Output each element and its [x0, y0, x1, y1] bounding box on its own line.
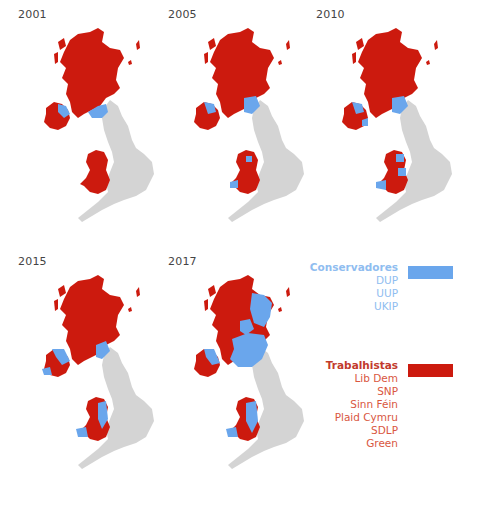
legend-swatch-labour: [408, 364, 453, 377]
legend-head-conservadores: Conservadores: [310, 261, 398, 274]
legend-swatch-conservative: [408, 266, 453, 279]
uk-map: [18, 22, 168, 242]
year-label: 2017: [168, 255, 197, 268]
year-label: 2005: [168, 8, 197, 21]
legend-labour-group: Trabalhistas Lib Dem SNP Sinn Féin Plaid…: [326, 359, 398, 450]
legend-item-sinn-fein: Sinn Féin: [326, 398, 398, 411]
legend-item-uup: UUP: [310, 287, 398, 300]
map-panel-2015: 2015: [18, 255, 168, 495]
uk-map: [316, 22, 466, 242]
legend-item-snp: SNP: [326, 385, 398, 398]
map-panel-2017: 2017: [168, 255, 318, 495]
legend-item-dup: DUP: [310, 274, 398, 287]
legend-item-green: Green: [326, 437, 398, 450]
legend-item-ukip: UKIP: [310, 300, 398, 313]
year-label: 2010: [316, 8, 345, 21]
map-panel-2001: 2001: [18, 8, 168, 248]
legend-item-lib-dem: Lib Dem: [326, 372, 398, 385]
uk-map: [168, 269, 318, 489]
year-label: 2001: [18, 8, 47, 21]
year-label: 2015: [18, 255, 47, 268]
uk-map: [168, 22, 318, 242]
map-panel-2005: 2005: [168, 8, 318, 248]
legend-conservative-group: Conservadores DUP UUP UKIP: [310, 261, 398, 313]
legend-item-sdlp: SDLP: [326, 424, 398, 437]
map-panel-2010: 2010: [316, 8, 466, 248]
legend-head-trabalhistas: Trabalhistas: [326, 359, 398, 372]
uk-map: [18, 269, 168, 489]
legend-item-plaid-cymru: Plaid Cymru: [326, 411, 398, 424]
